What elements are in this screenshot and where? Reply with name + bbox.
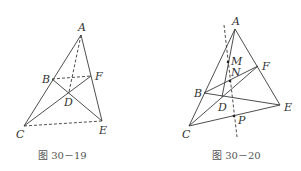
segment-BF — [52, 76, 91, 79]
label-A: A — [231, 15, 240, 28]
figure-30-20: A M N F B D E P C 图 30－20 — [182, 15, 292, 161]
label-N: N — [230, 66, 241, 79]
label-F: F — [94, 70, 103, 83]
figure-caption: 图 30－19 — [38, 150, 87, 161]
label-C: C — [16, 128, 25, 141]
point-P — [233, 115, 236, 118]
segment-AC — [189, 29, 235, 126]
point-M — [227, 61, 230, 64]
segment-AD — [69, 35, 81, 92]
label-B: B — [193, 87, 202, 100]
label-C: C — [182, 128, 191, 141]
label-E: E — [98, 124, 107, 137]
segment-AC — [24, 35, 81, 126]
label-D: D — [63, 96, 73, 109]
point-N — [229, 80, 232, 83]
figure-30-19: A B F D C E 图 30－19 — [16, 21, 107, 161]
label-D: D — [217, 101, 227, 114]
figure-caption: 图 30－20 — [212, 150, 261, 161]
segment-CE — [24, 121, 102, 126]
label-A: A — [77, 21, 86, 34]
label-B: B — [41, 73, 50, 86]
geometry-figures: A B F D C E 图 30－19 A M N F B D E P C 图 … — [0, 0, 301, 171]
label-F: F — [261, 60, 270, 73]
label-E: E — [283, 101, 292, 114]
label-P: P — [237, 114, 246, 127]
